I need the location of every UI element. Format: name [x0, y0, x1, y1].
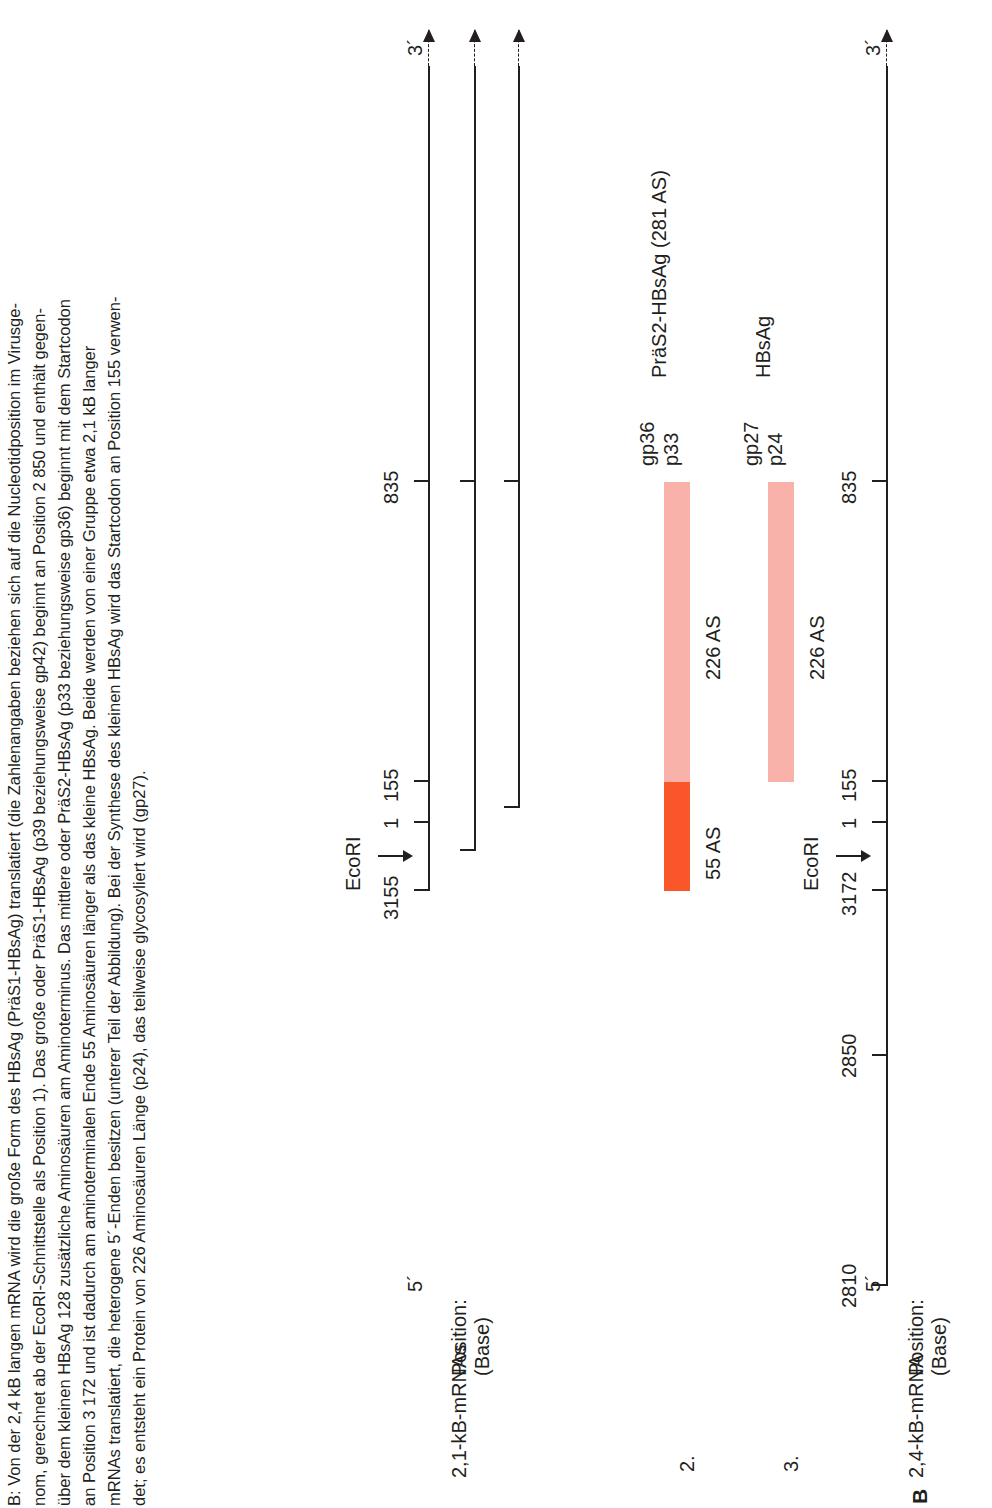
protein-bar-2 [664, 482, 690, 891]
mrna2-backbone-b [474, 66, 476, 851]
caption-line-1: nom, gerechnet ab der EcoRI-Schnittstell… [27, 2, 52, 1506]
protein-segment-hbsag-b [664, 482, 690, 782]
protein-segment-pres2-b [664, 782, 690, 891]
segment-label-2-1: 226 AS [702, 615, 724, 680]
glycoform-label-3: gp27 [740, 422, 762, 467]
mrna1-tick-2810 [872, 1284, 887, 1286]
panel-letter: B [908, 1489, 932, 1504]
mrna2-tick-b-835 [460, 480, 475, 482]
mrna1-tick-3172 [872, 889, 887, 891]
mrna2-tick-1 [414, 821, 429, 823]
mrna2-backbone-c [518, 66, 520, 808]
caption-line-2: über dem kleinen HBsAg 128 zusätzliche A… [52, 2, 77, 1506]
figure-canvas: B 2,4-kB-mRNA Position: (Base) 5´ 3´ Eco… [0, 0, 992, 1508]
mrna1-position-label: Position: [905, 1299, 927, 1376]
ecori-arrow-bottom [378, 855, 404, 857]
protein-bar-3 [768, 482, 794, 782]
caption-line-3: an Position 3 172 und ist dadurch am ami… [77, 2, 102, 1506]
protform-label-3: p24 [764, 433, 786, 466]
mrna1-tick-2850 [872, 1054, 887, 1056]
protein-name-2: PräS2-HBsAg (281 AS) [648, 170, 670, 378]
figure-stage: B 2,4-kB-mRNA Position: (Base) 5´ 3´ Eco… [0, 0, 992, 1508]
mrna1-tick-155 [872, 780, 887, 782]
row-index-2: 2. [676, 1455, 698, 1472]
protein-name-3: HBsAg [752, 316, 774, 378]
segment-label-3-0: 226 AS [806, 615, 828, 680]
mrna2-position-unit: (Base) [471, 1317, 493, 1376]
mrna2-ecori-label: EcoRI [342, 837, 364, 891]
row-index-3: 3. [780, 1455, 802, 1472]
figure-caption: B: Von der 2,4 kB langen mRNA wird die g… [2, 2, 152, 1506]
segment-label-2-0: 55 AS [702, 827, 724, 880]
caption-line-4: mRNAs translatiert, die heterogene 5´-En… [102, 2, 127, 1506]
mrna2-ticklabel-2: 155 [380, 769, 403, 802]
mrna1-five-prime: 5´ [862, 1274, 884, 1292]
mrna1-ecori-label: EcoRI [800, 837, 822, 891]
mrna1-ticklabel-4: 155 [838, 769, 861, 802]
mrna2-arrowhead-b [469, 29, 481, 42]
mrna2-ticklabel-0: 3155 [380, 876, 403, 921]
mrna2-ticklabel-1: 1 [380, 818, 403, 829]
mrna2-tick-155 [414, 780, 429, 782]
mrna1-tick-1 [872, 821, 887, 823]
mrna2-tick-c-835 [504, 480, 519, 482]
mrna1-backbone [886, 66, 888, 1286]
mrna1-ticklabel-3: 1 [838, 818, 861, 829]
caption-line-0: B: Von der 2,4 kB langen mRNA wird die g… [2, 2, 27, 1506]
ecori-arrow-top [836, 855, 862, 857]
glycoform-label-2: gp36 [636, 422, 658, 467]
mrna1-ticklabel-0: 2810 [838, 1264, 861, 1309]
mrna2-backbone-a [428, 66, 430, 891]
mrna2-arrowhead-c [513, 29, 525, 42]
protform-label-2: p33 [660, 433, 682, 466]
mrna2-tick-835 [414, 480, 429, 482]
mrna2-tick-b-start [460, 849, 475, 851]
mrna1-arrowhead [881, 29, 893, 42]
protein-segment-hbsag-c [768, 482, 794, 782]
mrna1-ticklabel-5: 835 [838, 471, 861, 504]
mrna2-tick-3155 [414, 889, 429, 891]
mrna1-ticklabel-2: 3172 [838, 872, 861, 917]
mrna2-five-prime: 5´ [404, 1274, 426, 1292]
mrna1-tick-835 [872, 480, 887, 482]
mrna2-ticklabel-3: 835 [380, 471, 403, 504]
mrna2-arrowhead-a [423, 29, 435, 42]
mrna1-position-unit: (Base) [928, 1317, 950, 1376]
caption-line-5: det; es entsteht ein Protein von 226 Ami… [127, 2, 152, 1506]
mrna2-tick-c-start [504, 806, 519, 808]
mrna2-position-label: Position: [448, 1299, 470, 1376]
mrna1-ticklabel-1: 2850 [838, 1034, 861, 1079]
